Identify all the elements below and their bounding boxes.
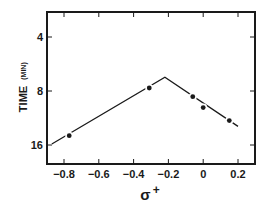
data-point: [227, 118, 232, 123]
data-point: [190, 94, 195, 99]
data-point: [147, 86, 152, 91]
x-tick-label: 0.2: [230, 168, 245, 180]
svg-text:(MIN): (MIN): [20, 62, 28, 80]
x-tick-label: 0: [200, 168, 206, 180]
data-point: [67, 133, 72, 138]
x-axis-ticks: −0.8−0.6−0.4−0.200.2: [53, 12, 246, 180]
y-axis-title: TIME (MIN): [17, 62, 29, 112]
svg-text:TIME: TIME: [17, 86, 29, 112]
x-axis-title: σ+: [140, 183, 159, 203]
fit-line: [52, 77, 238, 144]
y-tick-label: 8: [37, 85, 43, 97]
fit-polyline: [52, 77, 238, 144]
y-tick-label: 4: [37, 31, 44, 43]
y-axis-ticks: 4816: [31, 31, 255, 151]
chart: −0.8−0.6−0.4−0.200.2 4816 σ+ TIME (MIN): [0, 0, 272, 208]
y-tick-label: 16: [31, 139, 43, 151]
x-tick-label: −0.4: [123, 168, 146, 180]
data-points: [65, 84, 233, 140]
data-point: [201, 105, 206, 110]
x-tick-label: −0.2: [158, 168, 180, 180]
x-tick-label: −0.6: [88, 168, 110, 180]
x-tick-label: −0.8: [53, 168, 75, 180]
